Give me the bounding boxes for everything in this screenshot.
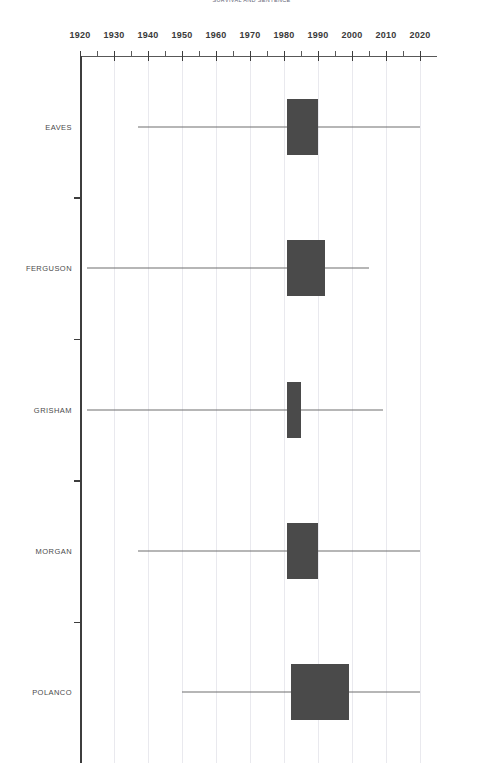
box-plot-series bbox=[0, 0, 503, 769]
whisker-grisham bbox=[87, 409, 383, 410]
box-eaves bbox=[287, 99, 318, 155]
box-morgan bbox=[287, 523, 318, 579]
whisker-morgan bbox=[138, 550, 420, 551]
box-ferguson bbox=[287, 240, 324, 296]
whisker-eaves bbox=[138, 126, 420, 127]
box-plot-chart: SURVIVAL AND SENTENCE 192019301940195019… bbox=[0, 0, 503, 769]
box-grisham bbox=[287, 382, 301, 438]
whisker-ferguson bbox=[87, 268, 369, 269]
box-polanco bbox=[291, 664, 349, 720]
